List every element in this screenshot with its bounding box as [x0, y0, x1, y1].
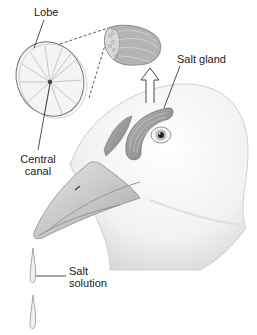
salt-solution-label: Salt solution	[69, 265, 107, 289]
central-canal-label-line2: canal	[18, 165, 58, 177]
salt-solution-label-line1: Salt	[69, 265, 107, 277]
salt-droplet-2	[30, 295, 36, 329]
central-canal-label-line1: Central	[18, 153, 58, 165]
central-canal-label: Central canal	[18, 153, 58, 177]
lobe-label: Lobe	[34, 6, 58, 18]
salt-gland-label: Salt gland	[177, 53, 226, 65]
salt-droplet-1	[30, 248, 36, 283]
gland-segment-enlarged	[105, 25, 161, 65]
eye	[151, 127, 171, 143]
salt-solution-label-line2: solution	[69, 277, 107, 289]
central-canal-dot	[48, 80, 52, 84]
lobe-cross-section	[4, 31, 99, 130]
